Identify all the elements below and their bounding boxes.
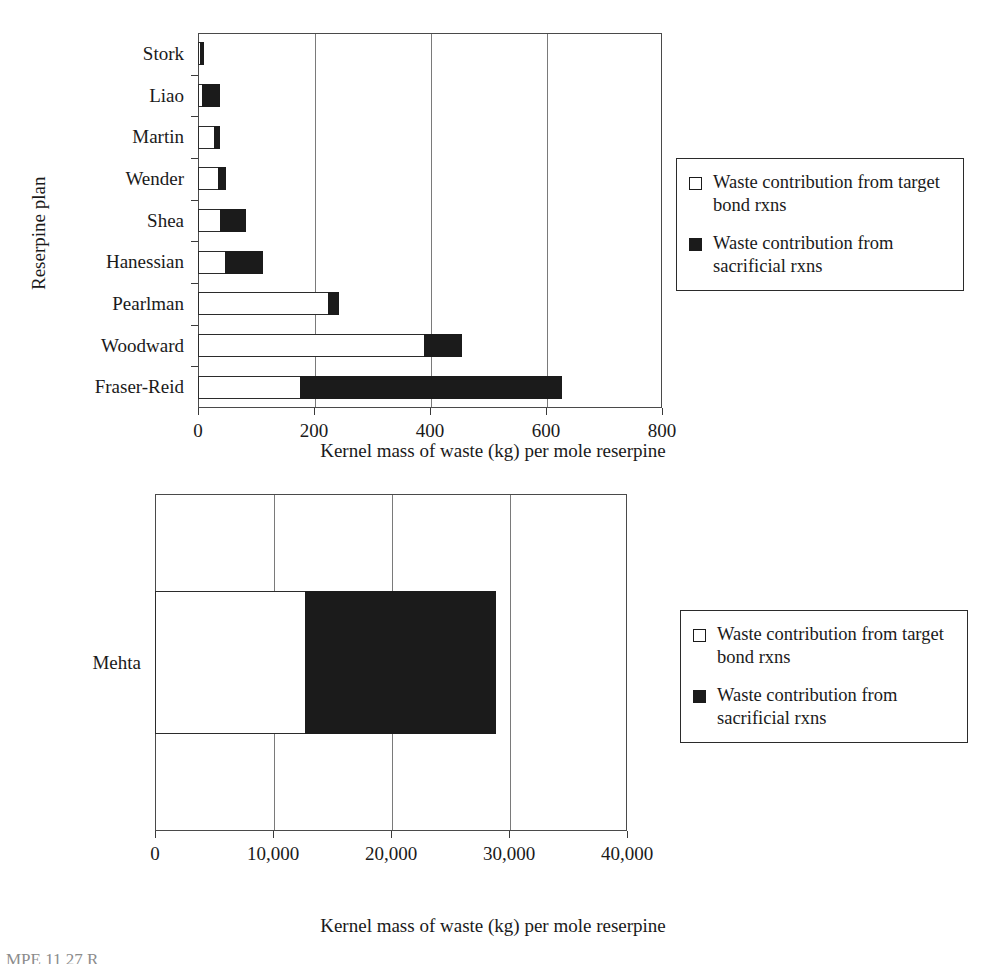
- y-axis-category-label: Hanessian: [0, 251, 184, 273]
- bar-segment-sacrificial: [300, 376, 562, 399]
- x-axis-tick: [391, 831, 392, 838]
- bar-segment-sacrificial: [305, 591, 496, 734]
- bar-segment-target-bond: [155, 591, 306, 734]
- x-gridline: [547, 34, 548, 407]
- bar-segment-sacrificial: [225, 251, 263, 274]
- bar-stack: [198, 292, 339, 315]
- legend-swatch-filled-icon: [689, 238, 702, 251]
- x-axis-tick: [273, 831, 274, 838]
- x-axis-tick: [509, 831, 510, 838]
- bar-segment-target-bond: [198, 334, 425, 357]
- bar-segment-sacrificial: [218, 167, 226, 190]
- x-axis-tick: [546, 408, 547, 415]
- legend-entry: Waste contribution from sacrificial rxns: [693, 684, 953, 731]
- x-axis-tick-label: 200: [300, 420, 329, 442]
- legend-entry-label: Waste contribution from sacrificial rxns: [717, 684, 945, 731]
- x-axis-title-top: Kernel mass of waste (kg) per mole reser…: [0, 440, 986, 462]
- bar-stack: [198, 126, 220, 149]
- bar-stack: [198, 334, 462, 357]
- bar-segment-sacrificial: [214, 126, 220, 149]
- figure-bottom-chart: Reserpine plan Kernel mass of waste (kg)…: [0, 470, 986, 950]
- bar-stack: [155, 591, 496, 734]
- legend-top: Waste contribution from target bond rxns…: [676, 158, 964, 291]
- x-axis-tick-label: 30,000: [483, 843, 535, 865]
- x-axis-tick-label: 600: [532, 420, 561, 442]
- legend-swatch-filled-icon: [693, 690, 706, 703]
- legend-swatch-open-icon: [689, 177, 702, 190]
- legend-swatch-open-icon: [693, 629, 706, 642]
- bar-segment-sacrificial: [220, 209, 246, 232]
- legend-entry-label: Waste contribution from sacrificial rxns: [713, 232, 941, 279]
- y-axis-category-label: Woodward: [0, 335, 184, 357]
- x-axis-tick: [314, 408, 315, 415]
- y-axis-category-label: Liao: [0, 85, 184, 107]
- y-axis-tick: [191, 241, 198, 242]
- y-axis-category-label: Pearlman: [0, 293, 184, 315]
- page-caption-sliver: MPE 11 27 R: [6, 950, 98, 964]
- y-axis-category-label: Mehta: [0, 652, 141, 674]
- x-axis-tick: [662, 408, 663, 415]
- bar-segment-target-bond: [198, 376, 301, 399]
- bar-stack: [198, 209, 246, 232]
- x-axis-tick: [430, 408, 431, 415]
- y-axis-tick: [191, 158, 198, 159]
- figure-top-chart: Reserpine plan Kernel mass of waste (kg)…: [0, 0, 986, 470]
- legend-entry: Waste contribution from sacrificial rxns: [689, 232, 949, 279]
- bar-stack: [198, 251, 263, 274]
- legend-bottom: Waste contribution from target bond rxns…: [680, 610, 968, 743]
- y-axis-tick: [191, 283, 198, 284]
- x-axis-tick-label: 0: [150, 843, 160, 865]
- y-axis-tick: [191, 325, 198, 326]
- bar-segment-sacrificial: [328, 292, 340, 315]
- x-gridline: [510, 495, 511, 830]
- y-axis-tick: [191, 366, 198, 367]
- x-axis-tick-label: 40,000: [601, 843, 653, 865]
- x-axis-tick-label: 400: [416, 420, 445, 442]
- legend-entry: Waste contribution from target bond rxns: [693, 623, 953, 670]
- y-axis-tick: [191, 200, 198, 201]
- legend-entry-label: Waste contribution from target bond rxns: [717, 623, 945, 670]
- x-axis-tick: [627, 831, 628, 838]
- y-axis-category-label: Fraser-Reid: [0, 376, 184, 398]
- bar-segment-sacrificial: [202, 84, 221, 107]
- bar-segment-target-bond: [198, 251, 226, 274]
- bar-segment-sacrificial: [424, 334, 462, 357]
- bar-stack: [198, 376, 562, 399]
- x-axis-tick-label: 800: [648, 420, 677, 442]
- y-axis-category-label: Stork: [0, 43, 184, 65]
- bar-segment-target-bond: [198, 292, 329, 315]
- x-axis-tick-label: 10,000: [247, 843, 299, 865]
- bar-segment-target-bond: [198, 167, 219, 190]
- bar-stack: [198, 167, 226, 190]
- bar-stack: [198, 84, 220, 107]
- y-axis-category-label: Wender: [0, 168, 184, 190]
- bar-segment-target-bond: [198, 126, 215, 149]
- x-axis-tick-label: 20,000: [365, 843, 417, 865]
- y-axis-category-label: Shea: [0, 210, 184, 232]
- bar-segment-sacrificial: [200, 42, 204, 65]
- x-axis-tick-label: 0: [193, 420, 203, 442]
- bar-segment-target-bond: [198, 209, 221, 232]
- y-axis-tick: [191, 116, 198, 117]
- legend-entry: Waste contribution from target bond rxns: [689, 171, 949, 218]
- y-axis-tick: [191, 75, 198, 76]
- legend-entry-label: Waste contribution from target bond rxns: [713, 171, 941, 218]
- x-axis-tick: [198, 408, 199, 415]
- x-axis-tick: [155, 831, 156, 838]
- bar-stack: [198, 42, 204, 65]
- y-axis-category-label: Martin: [0, 126, 184, 148]
- x-axis-title-bottom: Kernel mass of waste (kg) per mole reser…: [0, 915, 986, 937]
